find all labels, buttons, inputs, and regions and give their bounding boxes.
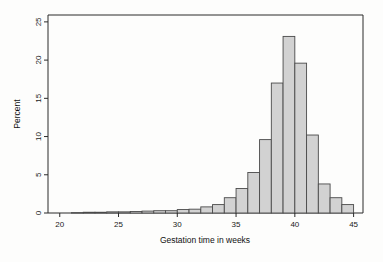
y-tick-label: 25 [34,17,43,26]
histogram-bar [72,213,84,214]
bar-rect [224,198,236,213]
bar-rect [307,135,319,213]
histogram-bar [189,209,201,213]
histogram-bar [248,172,260,213]
bar-rect [342,205,354,213]
y-tick-label: 5 [34,172,43,177]
x-tick-label: 30 [173,220,182,229]
bar-rect [142,211,154,213]
bar-rect [318,184,330,213]
histogram-bar [330,198,342,213]
histogram-bar [201,207,213,213]
bar-rect [130,211,142,213]
y-axis-ticks: 0510152025 [34,17,48,215]
x-tick-label: 45 [349,220,358,229]
histogram-bar [307,135,319,213]
y-tick-label: 10 [34,132,43,141]
histogram-bar [83,212,95,213]
histogram-bar [95,212,107,213]
histogram-bar [318,184,330,213]
histogram-bar [260,140,272,213]
x-axis-title: Gestation time in weeks [160,235,250,245]
histogram-plot: 0510152025 202530354045 Gestation time i… [0,0,383,262]
bar-rect [260,140,272,213]
x-tick-label: 40 [290,220,299,229]
bar-rect [213,205,225,213]
histogram-bar [177,210,189,213]
y-tick-label: 20 [34,55,43,64]
histogram-bar [107,212,119,213]
histogram-bar [236,189,248,213]
x-tick-label: 20 [55,220,64,229]
histogram-bar [130,211,142,213]
histogram-bar [283,36,295,213]
bar-rect [201,207,213,213]
histogram-bar [342,205,354,213]
histogram-bar [295,63,307,213]
x-axis-ticks: 202530354045 [55,213,358,229]
bar-rect [236,189,248,213]
bar-rect [154,211,166,213]
chart-figure: 0510152025 202530354045 Gestation time i… [0,0,383,262]
histogram-bar [166,211,178,213]
bar-rect [95,212,107,213]
bar-rect [177,210,189,213]
bar-rect [119,212,131,213]
x-tick-label: 25 [114,220,123,229]
histogram-bar [224,198,236,213]
histogram-bar [154,211,166,213]
bar-rect [107,212,119,213]
bar-rect [189,209,201,213]
bar-rect [330,198,342,213]
bar-rect [83,212,95,213]
x-tick-label: 35 [232,220,241,229]
bar-rect [248,172,260,213]
histogram-bar [119,212,131,213]
bar-rect [295,63,307,213]
histogram-bar [142,211,154,213]
y-tick-label: 0 [34,210,43,215]
bar-rect [271,83,283,213]
histogram-bar [213,205,225,213]
bar-rect [166,211,178,213]
y-tick-label: 15 [34,93,43,102]
bars-group [72,36,354,213]
y-axis-title: Percent [12,99,22,129]
histogram-bar [271,83,283,213]
bar-rect [283,36,295,213]
bar-rect [72,213,84,214]
